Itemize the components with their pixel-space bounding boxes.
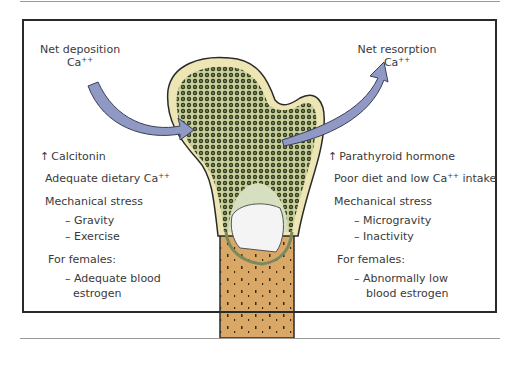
ion-text: Ca xyxy=(67,56,81,69)
deposition-ion: Ca++ xyxy=(40,56,120,69)
increase-arrow-icon: ↑ xyxy=(40,150,49,163)
stress-heading: Mechanical stress xyxy=(45,195,143,208)
increase-arrow-icon: ↑ xyxy=(328,150,337,163)
ion-charge: ++ xyxy=(81,56,93,64)
females-heading: For females: xyxy=(337,253,405,266)
pth-factor: ↑Parathyroid hormone xyxy=(328,150,455,163)
resorption-label: Net resorption xyxy=(352,43,442,56)
hormone-label: Calcitonin xyxy=(51,150,106,163)
calcitonin-factor: ↑Calcitonin xyxy=(40,150,106,163)
deposition-title: Net deposition Ca++ xyxy=(40,43,120,69)
diet-label: Adequate dietary Ca xyxy=(45,172,158,185)
stress-item-inactivity: – Inactivity xyxy=(354,230,414,243)
resorption-title: Net resorption Ca++ xyxy=(352,43,442,69)
females-item-cont: blood estrogen xyxy=(366,287,449,300)
females-item-cont: estrogen xyxy=(73,287,122,300)
ion-charge: ++ xyxy=(447,172,459,180)
resorption-ion: Ca++ xyxy=(352,56,442,69)
stress-item-gravity: – Gravity xyxy=(65,214,114,227)
females-heading: For females: xyxy=(48,253,116,266)
stress-item-exercise: – Exercise xyxy=(65,230,120,243)
diet-label-end: intake xyxy=(459,172,496,185)
diet-label: Poor diet and low Ca xyxy=(334,172,447,185)
diet-factor: Poor diet and low Ca++ intake xyxy=(334,172,496,185)
dietary-factor: Adequate dietary Ca++ xyxy=(45,172,170,185)
stress-item-microgravity: – Microgravity xyxy=(354,214,431,227)
ion-charge: ++ xyxy=(158,172,170,180)
stress-heading: Mechanical stress xyxy=(334,195,432,208)
ion-text: Ca xyxy=(384,56,398,69)
hormone-label: Parathyroid hormone xyxy=(339,150,455,163)
females-item: – Adequate blood xyxy=(65,272,161,285)
ion-charge: ++ xyxy=(398,56,410,64)
deposition-label: Net deposition xyxy=(40,43,120,56)
females-item: – Abnormally low xyxy=(354,272,448,285)
bottom-rule xyxy=(20,338,500,339)
